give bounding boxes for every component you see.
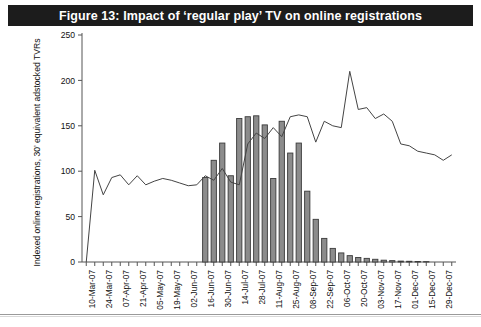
y-tick-label: 100: [61, 166, 76, 176]
y-tick-label: 150: [61, 121, 76, 131]
y-tick-label: 250: [61, 30, 76, 40]
bar: [322, 238, 327, 262]
x-tick-label: 25-Aug-07: [291, 270, 301, 309]
x-tick-label: 14-Jul-07: [240, 270, 250, 305]
chart-axes: [82, 33, 456, 262]
y-axis-ticks: 050100150200250: [61, 30, 82, 267]
x-tick-label: 11-Aug-07: [274, 270, 284, 309]
y-tick-label: 50: [65, 212, 75, 222]
x-tick-label: 20-Oct-07: [359, 270, 369, 307]
x-tick-label: 24-Mar-07: [104, 270, 114, 309]
y-axis-title: Indexed online registrations, 30’ equiva…: [32, 39, 42, 267]
bar-series: [203, 116, 429, 262]
bar: [339, 253, 344, 262]
bar: [203, 178, 208, 262]
bar: [296, 143, 301, 262]
bar: [262, 125, 267, 262]
x-tick-label: 22-Sep-07: [325, 270, 335, 309]
bar: [398, 261, 403, 262]
x-tick-label: 29-Dec-07: [444, 270, 454, 309]
bar: [356, 257, 361, 262]
bar: [330, 248, 335, 262]
x-axis-ticks: [86, 262, 452, 266]
bar: [220, 143, 225, 262]
x-tick-label: 07-Apr-07: [121, 270, 131, 307]
x-tick-label: 05-May-07: [155, 270, 165, 310]
x-tick-label: 16-Jun-07: [206, 270, 216, 308]
x-tick-label: 10-Mar-07: [87, 270, 97, 309]
bar: [407, 261, 412, 262]
registrations-line: [86, 71, 452, 262]
x-tick-label: 15-Dec-07: [427, 270, 437, 309]
bar: [390, 261, 395, 262]
bar: [228, 176, 233, 262]
y-tick-label: 0: [70, 257, 75, 267]
y-tick-label: 200: [61, 76, 76, 86]
x-tick-label: 03-Nov-07: [376, 270, 386, 309]
bar: [288, 153, 293, 262]
x-tick-label: 21-Apr-07: [138, 270, 148, 307]
y-axis-title-text: Indexed online registrations, 30’ equiva…: [32, 39, 42, 267]
bar: [271, 178, 276, 262]
bar: [347, 256, 352, 262]
footer-divider-shadow: [0, 316, 481, 317]
bar: [373, 259, 378, 262]
x-tick-label: 28-Jul-07: [257, 270, 267, 305]
x-tick-label: 01-Dec-07: [410, 270, 420, 309]
x-tick-label: 17-Nov-07: [393, 270, 403, 309]
bar: [279, 121, 284, 262]
bar: [211, 160, 216, 262]
bar: [237, 119, 242, 262]
registrations-tvr-chart: Indexed online registrations, 30’ equiva…: [0, 26, 481, 314]
x-axis-labels: 10-Mar-0724-Mar-0707-Apr-0721-Apr-0705-M…: [87, 270, 454, 310]
x-tick-label: 30-Jun-07: [223, 270, 233, 308]
bar: [245, 117, 250, 262]
figure-title-bar: Figure 13: Impact of ‘regular play’ TV o…: [8, 5, 473, 26]
bar: [313, 219, 318, 262]
page-title: Figure 13: Impact of ‘regular play’ TV o…: [59, 9, 422, 23]
x-tick-label: 02-Jun-07: [189, 270, 199, 308]
bar: [254, 116, 259, 262]
x-tick-label: 19-May-07: [172, 270, 182, 310]
line-series: [86, 71, 452, 262]
x-tick-label: 06-Oct-07: [342, 270, 352, 307]
bar: [305, 191, 310, 262]
chart-canvas: Indexed online registrations, 30’ equiva…: [0, 26, 481, 306]
bar: [364, 258, 369, 262]
bar: [381, 260, 386, 262]
figure-container: Figure 13: Impact of ‘regular play’ TV o…: [0, 0, 481, 327]
footer-divider: [0, 314, 481, 315]
x-tick-label: 08-Sep-07: [308, 270, 318, 309]
